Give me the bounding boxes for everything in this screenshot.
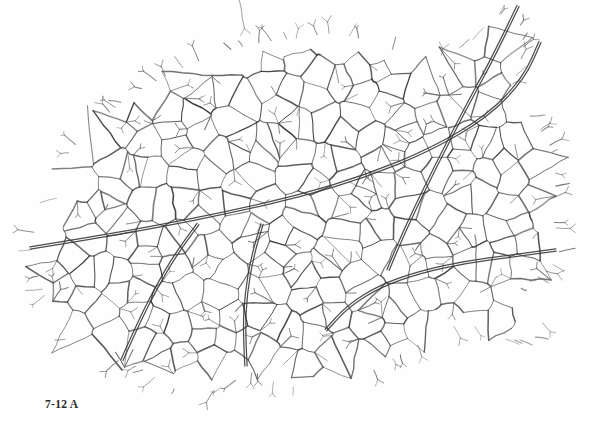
vein-segment bbox=[453, 170, 473, 171]
vein-segment bbox=[95, 218, 96, 223]
vein-segment bbox=[453, 256, 454, 266]
vein-segment bbox=[180, 129, 187, 130]
vein-segment bbox=[283, 267, 284, 274]
vein-segment bbox=[119, 309, 120, 317]
vein-segment bbox=[94, 256, 95, 287]
vein-segment bbox=[53, 283, 54, 301]
vein-segment bbox=[286, 245, 295, 246]
vein-segment bbox=[275, 172, 276, 184]
vein-segment bbox=[261, 71, 284, 72]
vein-segment bbox=[53, 301, 68, 302]
vein-segment bbox=[121, 148, 126, 149]
vein-segment bbox=[151, 256, 162, 257]
vein-segment bbox=[63, 226, 64, 231]
vein-segment bbox=[192, 328, 216, 329]
vein-segment bbox=[323, 302, 345, 303]
leaf-venation-diagram bbox=[0, 0, 594, 434]
vein-segment bbox=[393, 217, 394, 240]
figure-plate: 7-12 A bbox=[0, 0, 594, 434]
vein-segment bbox=[488, 310, 489, 340]
figure-caption: 7-12 A bbox=[45, 398, 78, 410]
vein-segment bbox=[212, 75, 241, 76]
vein-segment bbox=[141, 221, 153, 222]
plate-background bbox=[0, 0, 594, 434]
vein-segment bbox=[476, 246, 477, 281]
vein-segment bbox=[141, 187, 157, 188]
vein-segment bbox=[198, 235, 204, 236]
vein-segment bbox=[537, 262, 538, 268]
